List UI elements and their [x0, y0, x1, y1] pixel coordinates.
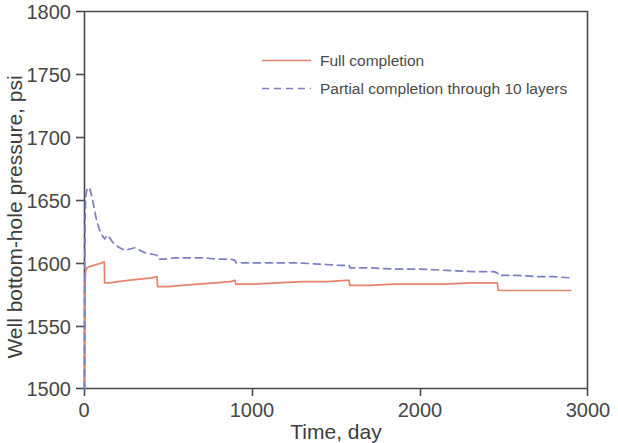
y-tick-label-1500: 1500 — [27, 378, 72, 400]
bottom-hole-pressure-line-chart: 1800 1750 1700 1650 1600 1550 1500 0 100… — [0, 0, 618, 443]
chart-background — [0, 0, 618, 443]
y-tick-label-1650: 1650 — [27, 190, 72, 212]
chart-figure: 1800 1750 1700 1650 1600 1550 1500 0 100… — [0, 0, 618, 443]
y-tick-label-1750: 1750 — [27, 64, 72, 86]
y-tick-label-1700: 1700 — [27, 127, 72, 149]
x-tick-label-3000: 3000 — [566, 399, 611, 421]
y-axis-title: Well bottom-hole pressure, psi — [3, 75, 26, 358]
x-tick-label-1000: 1000 — [230, 399, 275, 421]
y-tick-label-1800: 1800 — [27, 1, 72, 23]
legend-label-full-completion: Full completion — [320, 52, 424, 69]
x-tick-label-0: 0 — [78, 399, 89, 421]
x-axis-title: Time, day — [290, 420, 382, 443]
y-tick-label-1600: 1600 — [27, 253, 72, 275]
y-tick-label-1550: 1550 — [27, 316, 72, 338]
x-tick-label-2000: 2000 — [398, 399, 443, 421]
legend-label-partial-completion: Partial completion through 10 layers — [320, 80, 568, 97]
